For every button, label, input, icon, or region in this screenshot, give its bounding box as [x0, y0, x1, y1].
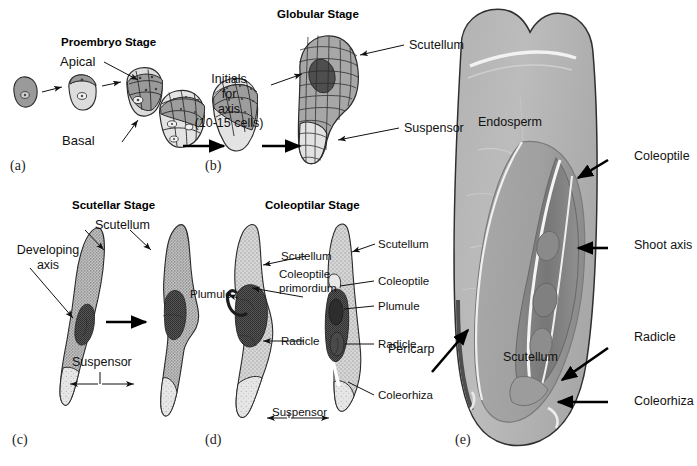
label-d-coleorhiza: Coleorhiza	[378, 389, 433, 402]
label-globular-suspensor: Suspensor	[404, 121, 464, 135]
initials-line-3: axis	[218, 102, 240, 116]
label-apical: Apical	[60, 55, 95, 70]
embryo-development-figure: Proembryo Stage Apical Basal (a) (b) Glo…	[0, 0, 697, 466]
suspensor-span-c	[70, 372, 134, 384]
panel-letter-a: (a)	[10, 158, 26, 174]
plumule-right-mass	[329, 299, 343, 325]
initials-line-2: for	[222, 87, 237, 101]
globular-title: Globular Stage	[277, 8, 359, 20]
developing-axis-line-2: axis	[37, 258, 59, 272]
leader-globular-initials	[271, 74, 302, 85]
label-c-developing-axis: Developing axis	[10, 243, 86, 273]
label-globular-initials: Initials for axis (10-15 cells)	[185, 72, 273, 131]
label-e-endosperm: Endosperm	[478, 115, 542, 129]
leader-globular-scutellum	[360, 45, 404, 55]
coleoptile-primordium-line-2: primordium	[279, 282, 337, 294]
label-d-suspensor: Suspensor	[272, 406, 327, 419]
label-e-shoot-axis: Shoot axis	[634, 238, 692, 252]
proembryo-zygote	[14, 77, 37, 107]
label-d-coleoptile-primordium: Coleoptile primordium	[279, 268, 351, 295]
label-e-coleoptile: Coleoptile	[634, 149, 690, 163]
developing-axis-line-1: Developing	[17, 243, 80, 257]
label-d-plumule-right: Plumule	[378, 300, 420, 313]
label-d-scutellum-right: Scutellum	[378, 238, 429, 251]
label-e-radicle: Radicle	[634, 330, 676, 344]
leader-basal	[122, 120, 138, 142]
label-e-scutellum: Scutellum	[503, 350, 558, 364]
proembryo-multicellular	[127, 68, 163, 117]
label-c-scutellum: Scutellum	[95, 218, 150, 232]
label-e-coleorhiza: Coleorhiza	[634, 394, 694, 408]
panel-letter-d: (d)	[205, 432, 221, 448]
arrow-2cell-to-multicell	[102, 82, 121, 86]
panel-a-artwork	[14, 62, 163, 142]
panel-c-title: Scutellar Stage	[72, 199, 155, 211]
leader-globular-suspensor	[338, 128, 399, 140]
initials-line-4: (10-15 cells)	[195, 116, 264, 130]
coleoptilar-embryo-left	[227, 225, 272, 418]
panel-d-title: Coleoptilar Stage	[265, 199, 360, 211]
leader-c-scutellum-right	[130, 230, 151, 250]
leader-c-developing-axis	[30, 268, 73, 318]
figure-artwork	[0, 0, 697, 466]
radicle-right-mass	[330, 332, 344, 356]
globular-stage-artwork	[262, 36, 404, 164]
label-basal: Basal	[62, 134, 95, 149]
label-d-scutellum-left: Scutellum	[281, 250, 332, 263]
panel-letter-c: (c)	[12, 432, 28, 448]
label-c-suspensor: Suspensor	[72, 355, 132, 369]
coleoptile-primordium-line-1: Coleoptile	[279, 268, 330, 280]
label-d-coleoptile-right: Coleoptile	[378, 275, 429, 288]
leader-d-scutellum-right	[352, 244, 375, 252]
label-globular-scutellum: Scutellum	[409, 38, 464, 52]
initials-line-1: Initials	[211, 72, 246, 86]
panel-a-title: Proembryo Stage	[61, 36, 156, 48]
arrow-zygote-to-2cell	[42, 87, 62, 92]
panel-letter-e: (e)	[455, 432, 471, 448]
label-d-plumule-left: Plumule	[190, 288, 232, 301]
proembryo-two-celled	[69, 75, 96, 110]
panel-letter-b: (b)	[205, 158, 221, 174]
label-d-radicle-left: Radicle	[281, 335, 319, 348]
scutellar-embryo-right	[161, 225, 199, 416]
panel-e-micrograph	[432, 5, 608, 455]
label-e-pericarp: Pericarp	[388, 342, 435, 356]
